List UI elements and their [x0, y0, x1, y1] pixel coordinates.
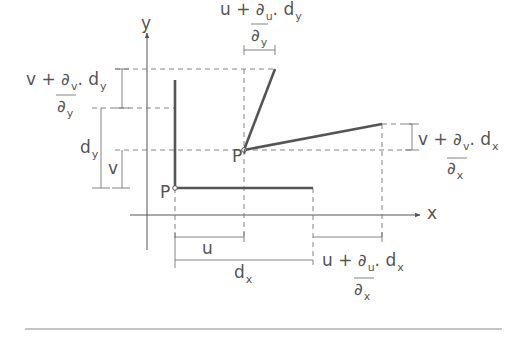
label-top-u-displacement: u + ∂u. dy: [220, 1, 302, 18]
label-right-v-denominator: ∂x: [447, 160, 463, 177]
y-axis-label: y: [141, 15, 151, 32]
label-left-v-displacement: v + ∂v. dy: [26, 71, 107, 88]
strain-deformation-diagram: [0, 0, 512, 337]
label-bottom-u-denominator: ∂x: [354, 281, 370, 298]
label-v: v: [108, 160, 118, 177]
deformed-element: [244, 69, 382, 150]
point-p-label: P: [160, 184, 170, 201]
x-axis-label: x: [427, 205, 437, 222]
dimension-lines: [92, 45, 419, 268]
label-bottom-u-displacement: u + ∂u. dx: [322, 252, 404, 269]
label-dx: dx: [234, 264, 252, 281]
label-top-u-denominator: ∂y: [251, 27, 267, 44]
point-p-prime-label: P': [232, 148, 247, 165]
fraction-bars: [56, 24, 467, 278]
dashed-guides: [92, 69, 412, 268]
label-left-v-denominator: ∂y: [57, 98, 73, 115]
point-p-marker: [173, 186, 178, 191]
label-dy: dy: [80, 139, 98, 156]
label-u: u: [202, 240, 213, 257]
label-right-v-displacement: v + ∂v. dx: [418, 131, 499, 148]
